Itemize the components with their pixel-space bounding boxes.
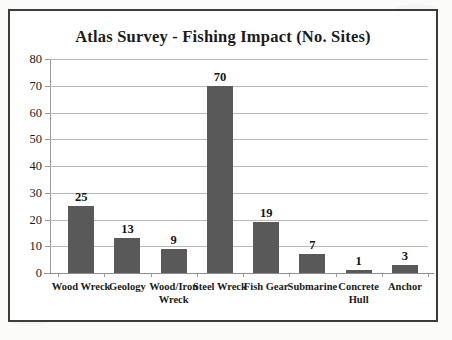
bar-value-label: 25: [75, 190, 88, 205]
chart-page: Atlas Survey - Fishing Impact (No. Sites…: [0, 0, 452, 340]
y-tick-mark: [45, 166, 50, 167]
x-tick-mark: [382, 273, 383, 277]
bar-value-label: 13: [121, 222, 134, 237]
gridline: [50, 193, 428, 194]
x-tick-mark: [197, 273, 198, 277]
y-axis-tick-label: 80: [30, 52, 43, 67]
y-axis-tick-label: 10: [30, 239, 43, 254]
bar-value-label: 1: [356, 254, 362, 269]
gridline: [50, 59, 428, 60]
y-axis-tick-label: 0: [36, 266, 42, 281]
y-tick-mark: [45, 220, 50, 221]
bar: [68, 206, 94, 273]
y-axis-tick-label: 20: [30, 212, 43, 227]
bar: [346, 270, 372, 273]
y-tick-mark: [45, 86, 50, 87]
bar: [299, 254, 325, 273]
y-tick-mark: [45, 59, 50, 60]
x-tick-mark: [151, 273, 152, 277]
bar-value-label: 9: [171, 233, 177, 248]
gridline: [50, 166, 428, 167]
gridline: [50, 220, 428, 221]
y-axis-tick-label: 30: [30, 185, 43, 200]
y-tick-mark: [45, 139, 50, 140]
y-axis-tick-label: 70: [30, 78, 43, 93]
x-tick-mark: [104, 273, 105, 277]
chart-title: Atlas Survey - Fishing Impact (No. Sites…: [10, 27, 436, 47]
bar: [253, 222, 279, 273]
x-tick-mark: [336, 273, 337, 277]
gridline: [50, 86, 428, 87]
plot-area: 01020304050607080 251397019713 Wood Wrec…: [50, 59, 428, 273]
x-tick-mark: [58, 273, 59, 277]
bar: [161, 249, 187, 273]
bar: [392, 265, 418, 273]
bar-value-label: 3: [402, 249, 408, 264]
bar: [114, 238, 140, 273]
gridline: [50, 273, 428, 274]
bar: [207, 86, 233, 273]
x-tick-mark: [428, 273, 429, 277]
y-tick-mark: [45, 246, 50, 247]
y-axis-tick-label: 40: [30, 159, 43, 174]
y-axis-tick-label: 60: [30, 105, 43, 120]
gridline: [50, 246, 428, 247]
gridline: [50, 113, 428, 114]
y-tick-mark: [45, 113, 50, 114]
gridline: [50, 139, 428, 140]
y-tick-mark: [45, 273, 50, 274]
bar-value-label: 70: [214, 70, 227, 85]
x-tick-mark: [289, 273, 290, 277]
x-axis-category-label: Anchor: [374, 281, 436, 294]
bar-value-label: 19: [260, 206, 273, 221]
x-tick-mark: [243, 273, 244, 277]
y-tick-mark: [45, 193, 50, 194]
y-axis-tick-label: 50: [30, 132, 43, 147]
chart-frame: Atlas Survey - Fishing Impact (No. Sites…: [8, 9, 438, 322]
bar-value-label: 7: [309, 238, 315, 253]
